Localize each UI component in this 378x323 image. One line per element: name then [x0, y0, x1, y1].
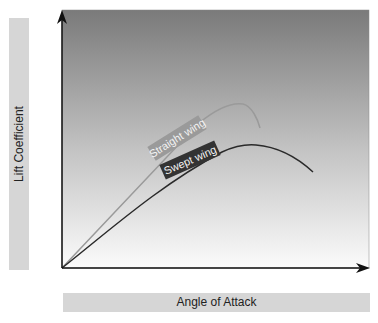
plot-area — [62, 10, 369, 268]
chart-canvas: Straight wing Swept wing — [0, 0, 378, 323]
